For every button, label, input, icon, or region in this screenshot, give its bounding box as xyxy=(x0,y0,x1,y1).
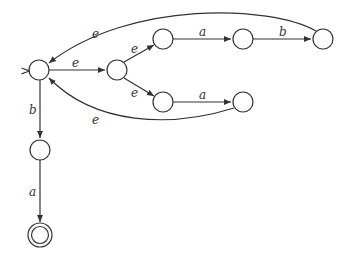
state-q0-start xyxy=(29,60,49,80)
label-q0-q1: e xyxy=(72,56,79,70)
transitions xyxy=(40,13,316,222)
label-q2-q3: a xyxy=(199,25,206,39)
label-q6-q0: e xyxy=(92,113,99,127)
label-q4-q0: e xyxy=(92,27,99,41)
label-q1-q5: e xyxy=(131,86,138,100)
state-q1 xyxy=(107,60,127,80)
start-marker: > xyxy=(20,63,31,78)
label-q0-q7: b xyxy=(29,103,37,117)
state-q6 xyxy=(233,92,253,112)
edge-q1-q2 xyxy=(124,45,154,62)
label-q7-q8: a xyxy=(29,185,36,199)
state-q3 xyxy=(233,29,253,49)
label-q5-q6: a xyxy=(199,88,206,102)
transition-labels: > e e e a b e a e b a xyxy=(20,25,287,199)
state-q2 xyxy=(153,29,173,49)
state-q4 xyxy=(313,29,333,49)
state-q5 xyxy=(153,92,173,112)
edge-q6-q0 xyxy=(49,78,234,120)
edge-q4-q0 xyxy=(49,13,316,63)
state-q8-accepting-inner xyxy=(32,227,49,244)
automaton-diagram: > e e e a b e a e b a xyxy=(0,0,350,265)
edge-q1-q5 xyxy=(124,78,154,96)
label-q3-q4: b xyxy=(279,25,287,39)
label-q1-q2: e xyxy=(131,42,138,56)
state-q7 xyxy=(30,140,50,160)
